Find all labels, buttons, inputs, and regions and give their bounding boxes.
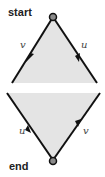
upper-left-edge-label: v (20, 39, 26, 50)
end-node-icon (50, 158, 57, 165)
lower-right-edge-label: v (83, 125, 89, 136)
paths-diagram: start end v u u v (0, 0, 105, 177)
upper-triangle-region (12, 17, 97, 83)
start-label: start (8, 6, 32, 18)
diagram-canvas (0, 0, 105, 177)
upper-right-edge-label: u (81, 39, 87, 50)
end-label: end (9, 160, 29, 172)
lower-left-edge-label: u (19, 125, 25, 136)
start-node-icon (50, 14, 57, 21)
